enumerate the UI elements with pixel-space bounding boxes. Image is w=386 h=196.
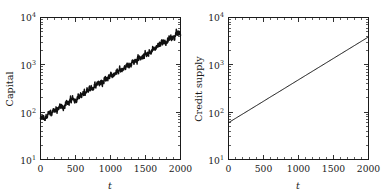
svg-text:104: 104 — [20, 11, 36, 23]
svg-text:101: 101 — [20, 154, 36, 166]
x-tick-label: 1500 — [134, 163, 158, 174]
svg-text:103: 103 — [208, 59, 224, 71]
x-tick-label: 1000 — [287, 163, 311, 174]
panel-capital: 104 103 102 101 Capital — [0, 0, 193, 196]
capital-plot-svg: 104 103 102 101 Capital — [0, 0, 193, 196]
y-tick-mantissa: 10 — [20, 108, 32, 119]
capital-x-ticklabels: 0 500 1000 1500 2000 — [38, 163, 193, 174]
credit-axis-ticks — [229, 18, 369, 160]
capital-data-line — [41, 29, 181, 120]
credit-y-ticklabels: 104 103 102 101 — [208, 11, 224, 166]
y-tick-mantissa: 10 — [208, 60, 220, 71]
y-tick-mantissa: 10 — [20, 12, 32, 23]
svg-text:101: 101 — [208, 154, 224, 166]
y-tick-exponent: 2 — [220, 107, 224, 115]
y-tick-mantissa: 10 — [20, 60, 32, 71]
y-tick-exponent: 3 — [32, 59, 36, 67]
panel-credit-supply: 104 103 102 101 Credit supply — [193, 0, 386, 196]
y-tick-mantissa: 10 — [208, 155, 220, 166]
capital-y-axis-label: Capital — [4, 72, 15, 107]
y-tick-mantissa: 10 — [208, 12, 220, 23]
x-tick-label: 1500 — [322, 163, 346, 174]
capital-plot-frame — [41, 18, 181, 160]
credit-x-ticklabels: 0 500 1000 1500 2000 — [226, 163, 381, 174]
credit-y-axis-label: Credit supply — [193, 56, 204, 122]
capital-axis-ticks — [41, 18, 181, 160]
credit-plot-frame — [229, 18, 369, 160]
x-tick-label: 2000 — [169, 163, 193, 174]
y-tick-exponent: 4 — [220, 11, 224, 19]
x-tick-label: 500 — [67, 163, 85, 174]
x-tick-label: 1000 — [99, 163, 123, 174]
y-tick-exponent: 2 — [32, 107, 36, 115]
x-tick-label: 500 — [255, 163, 273, 174]
y-tick-exponent: 3 — [220, 59, 224, 67]
capital-y-ticklabels: 104 103 102 101 — [20, 11, 36, 166]
y-tick-exponent: 1 — [32, 154, 36, 162]
x-tick-label: 0 — [38, 163, 44, 174]
x-tick-label: 0 — [226, 163, 232, 174]
svg-text:102: 102 — [20, 107, 36, 119]
y-tick-exponent: 1 — [220, 154, 224, 162]
svg-text:103: 103 — [20, 59, 36, 71]
capital-x-axis-label: t — [108, 180, 112, 191]
credit-supply-data-line — [229, 37, 369, 123]
y-tick-mantissa: 10 — [20, 155, 32, 166]
figure-two-panel-log-plots: 104 103 102 101 Capital — [0, 0, 386, 196]
svg-text:102: 102 — [208, 107, 224, 119]
svg-text:104: 104 — [208, 11, 224, 23]
credit-x-axis-label: t — [296, 180, 300, 191]
y-tick-exponent: 4 — [32, 11, 36, 19]
credit-supply-plot-svg: 104 103 102 101 Credit supply — [193, 0, 386, 196]
y-tick-mantissa: 10 — [208, 108, 220, 119]
x-tick-label: 2000 — [357, 163, 381, 174]
